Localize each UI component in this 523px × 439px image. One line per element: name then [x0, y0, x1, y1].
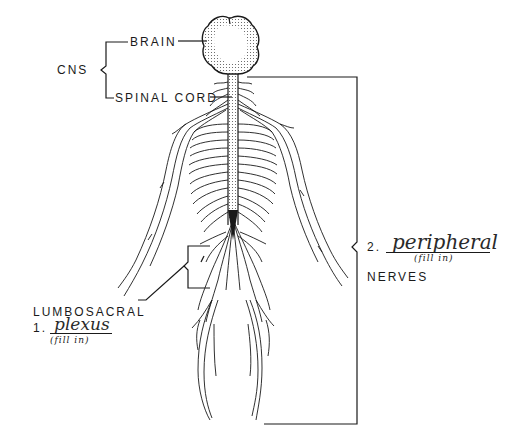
blank-2-hint: (fill in)	[414, 253, 454, 263]
thoracic-nerves-right	[238, 124, 277, 232]
blank-2-answer[interactable]: peripheral	[392, 230, 498, 254]
cns-label: CNS	[57, 63, 88, 77]
cns-bracket	[101, 42, 128, 98]
blank-1-number: 1.	[33, 321, 47, 335]
blank-1-underline	[50, 333, 112, 334]
nerves-label: NERVES	[367, 270, 428, 284]
blank-2-number: 2.	[367, 240, 381, 254]
lumbosacral-plexus	[198, 220, 270, 322]
lumbosacral-bracket	[138, 246, 210, 300]
right-arm-nerves	[238, 104, 348, 286]
leg-nerves	[192, 300, 274, 420]
blank-1-answer[interactable]: plexus	[54, 314, 110, 334]
blank-1-hint: (fill in)	[50, 335, 90, 345]
spinal-cord-illustration	[228, 74, 238, 240]
peripheral-bracket	[247, 77, 357, 424]
brain-illustration	[202, 16, 258, 74]
spinal-cord-label: SPINAL CORD	[115, 91, 218, 105]
nervous-system-diagram: CNS BRAIN SPINAL CORD LUMBOSACRAL 1. ple…	[0, 0, 523, 439]
brain-label: BRAIN	[130, 35, 177, 49]
thoracic-nerves-left	[189, 124, 228, 232]
